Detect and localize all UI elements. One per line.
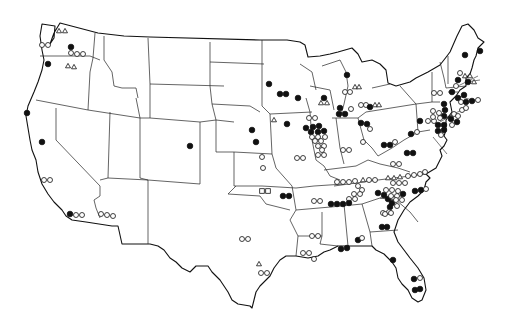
open-triangle-marker — [357, 84, 362, 88]
filled-circle-marker — [315, 129, 321, 135]
open-circle-marker — [301, 156, 306, 161]
open-triangle-marker — [325, 100, 330, 104]
open-triangle-marker — [463, 73, 468, 77]
open-triangle-marker — [472, 79, 477, 83]
filled-circle-marker — [469, 98, 475, 104]
open-circle-marker — [46, 43, 51, 48]
filled-circle-marker — [277, 91, 283, 97]
filled-circle-marker — [417, 118, 423, 124]
open-circle-marker — [316, 234, 321, 239]
open-circle-marker — [459, 100, 464, 105]
open-circle-marker — [105, 213, 110, 218]
filled-circle-marker — [280, 193, 286, 199]
open-circle-marker — [360, 236, 365, 241]
open-circle-marker — [406, 174, 411, 179]
open-circle-marker — [389, 211, 394, 216]
filled-circle-marker — [449, 89, 455, 95]
filled-circle-marker — [24, 110, 30, 116]
open-triangle-marker — [272, 117, 277, 121]
filled-circle-marker — [308, 129, 314, 135]
open-circle-marker — [111, 214, 116, 219]
open-circle-marker — [316, 144, 321, 149]
open-circle-marker — [40, 43, 45, 48]
open-circle-marker — [439, 133, 444, 138]
open-circle-marker — [341, 148, 346, 153]
open-triangle-marker — [72, 64, 77, 68]
open-circle-marker — [418, 172, 423, 177]
open-circle-marker — [412, 173, 417, 178]
open-circle-marker — [426, 119, 431, 124]
us-map-figure — [0, 0, 515, 331]
filled-circle-marker — [358, 120, 364, 126]
us-outline — [26, 23, 484, 308]
open-circle-marker — [390, 188, 395, 193]
open-triangle-marker — [361, 177, 366, 181]
open-circle-marker — [438, 91, 443, 96]
open-circle-marker — [349, 107, 354, 112]
filled-circle-marker — [462, 52, 468, 58]
filled-circle-marker — [342, 111, 348, 117]
open-circle-marker — [391, 181, 396, 186]
filled-circle-marker — [249, 127, 255, 133]
filled-circle-marker — [441, 127, 447, 133]
filled-circle-marker — [463, 99, 469, 105]
open-circle-marker — [307, 116, 312, 121]
open-circle-marker — [391, 162, 396, 167]
filled-circle-marker — [321, 95, 327, 101]
filled-circle-marker — [417, 286, 423, 292]
filled-circle-marker — [286, 193, 292, 199]
filled-circle-marker — [321, 128, 327, 134]
filled-circle-marker — [266, 81, 272, 87]
open-circle-marker — [358, 192, 363, 197]
filled-circle-marker — [346, 200, 352, 206]
filled-circle-marker — [404, 150, 410, 156]
open-circle-marker — [423, 170, 428, 175]
open-triangle-marker — [63, 28, 68, 32]
open-circle-marker — [450, 123, 455, 128]
filled-circle-marker — [418, 187, 424, 193]
filled-circle-marker — [412, 188, 418, 194]
open-circle-marker — [356, 184, 361, 189]
filled-circle-marker — [340, 201, 346, 207]
open-circle-marker — [353, 179, 358, 184]
open-circle-marker — [348, 90, 353, 95]
filled-circle-marker — [400, 191, 406, 197]
filled-circle-marker — [328, 201, 334, 207]
open-circle-marker — [312, 199, 317, 204]
open-circle-marker — [240, 237, 245, 242]
open-circle-marker — [322, 153, 327, 158]
open-circle-marker — [318, 199, 323, 204]
open-circle-marker — [361, 140, 366, 145]
open-circle-marker — [313, 116, 318, 121]
open-circle-marker — [295, 156, 300, 161]
open-circle-marker — [335, 180, 340, 185]
filled-circle-marker — [442, 107, 448, 113]
open-triangle-marker — [398, 174, 403, 178]
open-circle-marker — [352, 192, 357, 197]
filled-circle-marker — [411, 276, 417, 282]
filled-circle-marker — [334, 201, 340, 207]
open-circle-marker — [454, 84, 459, 89]
open-circle-marker — [464, 106, 469, 111]
filled-circle-marker — [465, 79, 471, 85]
open-circle-marker — [74, 213, 79, 218]
open-circle-marker — [341, 180, 346, 185]
open-circle-marker — [42, 178, 47, 183]
filled-circle-marker — [448, 116, 454, 122]
filled-circle-marker — [338, 246, 344, 252]
us-map — [0, 0, 515, 331]
filled-circle-marker — [390, 257, 396, 263]
open-circle-marker — [438, 116, 443, 121]
open-circle-marker — [75, 52, 80, 57]
location-markers — [24, 28, 483, 292]
filled-circle-marker — [45, 61, 51, 67]
open-triangle-marker — [377, 102, 382, 106]
open-triangle-marker — [319, 100, 324, 104]
open-circle-marker — [323, 135, 328, 140]
open-circle-marker — [99, 212, 104, 217]
open-circle-marker — [383, 212, 388, 217]
open-circle-marker — [394, 198, 399, 203]
open-circle-marker — [69, 51, 74, 56]
open-circle-marker — [265, 271, 270, 276]
filled-circle-marker — [284, 121, 290, 127]
